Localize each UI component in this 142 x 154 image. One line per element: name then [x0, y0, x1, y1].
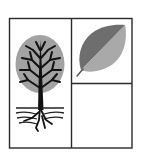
diagram-figure [0, 0, 142, 154]
